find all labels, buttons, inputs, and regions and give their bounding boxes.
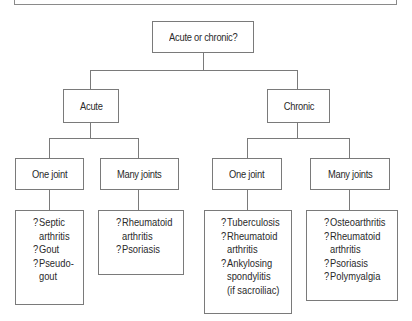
diagnosis-item-cont: arthritis	[116, 230, 173, 244]
connector	[90, 123, 91, 138]
diagnosis-item-cont: arthritis	[221, 243, 281, 257]
diagnosis-item: ?Polymyalgia	[324, 270, 386, 284]
chronic-one-joint-label: One joint	[229, 168, 264, 180]
connector	[49, 190, 50, 210]
connector	[138, 138, 139, 158]
diagnosis-item: ?Septic	[33, 216, 76, 230]
connector	[90, 70, 91, 89]
diagnosis-item: ?Pseudo-	[33, 257, 76, 271]
acute-many-joints-node: Many joints	[100, 158, 179, 190]
diagnosis-item: ?Osteoarthritis	[324, 216, 386, 230]
chronic-many-joints-label: Many joints	[328, 168, 372, 180]
connector	[349, 138, 350, 158]
diagnosis-item-cont: spondylitis	[221, 270, 281, 284]
chronic-one-joint-node: One joint	[212, 158, 282, 190]
chronic-one-joint-diagnoses: ?Tuberculosis ?Rheumatoid arthritis ?Ank…	[204, 210, 292, 314]
acute-one-joint-node: One joint	[15, 158, 84, 190]
connector	[297, 70, 298, 89]
diagnosis-item-cont: (if sacroiliac)	[221, 284, 281, 298]
root-label: Acute or chronic?	[169, 31, 237, 43]
connector	[297, 123, 298, 138]
chronic-label: Chronic	[283, 100, 313, 112]
connector	[49, 138, 139, 139]
acute-node: Acute	[63, 89, 119, 123]
connector	[247, 190, 248, 210]
chronic-many-joints-node: Many joints	[310, 158, 390, 190]
connector	[49, 138, 50, 158]
connector	[247, 138, 350, 139]
diagnosis-item-cont: gout	[33, 270, 76, 284]
acute-many-joints-label: Many joints	[117, 168, 161, 180]
connector	[203, 53, 204, 70]
acute-one-joint-diagnoses: ?Septic arthritis ?Gout ?Pseudo- gout	[15, 210, 84, 305]
diagnosis-item: ?Psoriasis	[324, 257, 386, 271]
connector	[90, 70, 298, 71]
connector	[349, 190, 350, 210]
diagnosis-item-cont: arthritis	[324, 243, 386, 257]
diagnosis-item: ?Tuberculosis	[221, 216, 281, 230]
acute-label: Acute	[80, 100, 103, 112]
diagnosis-item: ?Ankylosing	[221, 257, 281, 271]
connector	[138, 190, 139, 210]
diagnosis-item: ?Rheumatoid	[116, 216, 173, 230]
top-frame-edge	[14, 0, 397, 5]
root-node: Acute or chronic?	[152, 21, 254, 53]
connector	[247, 138, 248, 158]
diagnosis-item: ?Rheumatoid	[221, 230, 281, 244]
diagnosis-item: ?Rheumatoid	[324, 230, 386, 244]
diagnosis-item: ?Gout	[33, 243, 76, 257]
diagnosis-item-cont: arthritis	[33, 230, 76, 244]
chronic-node: Chronic	[267, 89, 330, 123]
diagnosis-item: ?Psoriasis	[116, 243, 173, 257]
acute-many-joints-diagnoses: ?Rheumatoid arthritis ?Psoriasis	[98, 210, 184, 275]
chronic-many-joints-diagnoses: ?Osteoarthritis ?Rheumatoid arthritis ?P…	[306, 210, 398, 301]
acute-one-joint-label: One joint	[32, 168, 67, 180]
